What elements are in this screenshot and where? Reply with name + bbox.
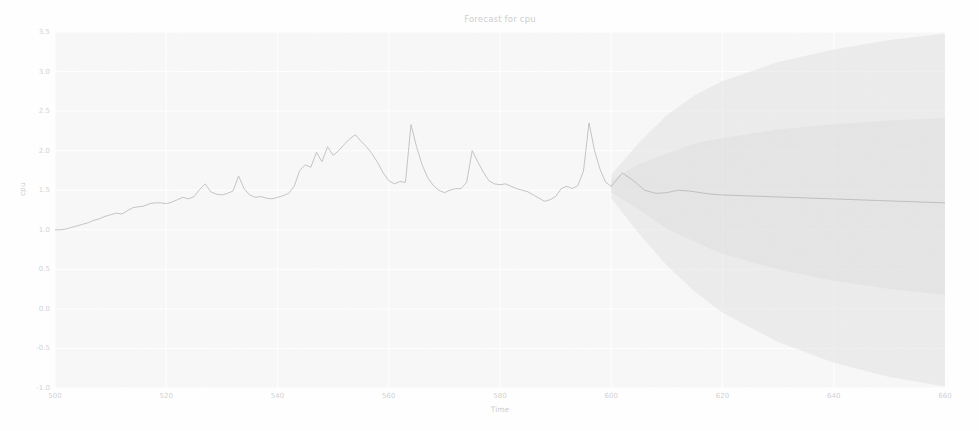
x-axis-ticks: 500520540560580600620640660 [0,0,979,431]
x-tick-label: 520 [160,392,173,400]
x-tick-label: 540 [271,392,284,400]
y-axis-label: cpu [18,182,27,196]
x-tick-label: 600 [605,392,618,400]
x-tick-label: 620 [716,392,729,400]
x-tick-label: 580 [493,392,506,400]
x-tick-label: 640 [827,392,840,400]
x-axis-label: Time [55,405,945,414]
x-tick-label: 660 [938,392,951,400]
x-tick-label: 560 [382,392,395,400]
x-tick-label: 500 [48,392,61,400]
forecast-chart-figure: Forecast for cpu -1.0-0.50.00.51.01.52.0… [0,0,979,431]
